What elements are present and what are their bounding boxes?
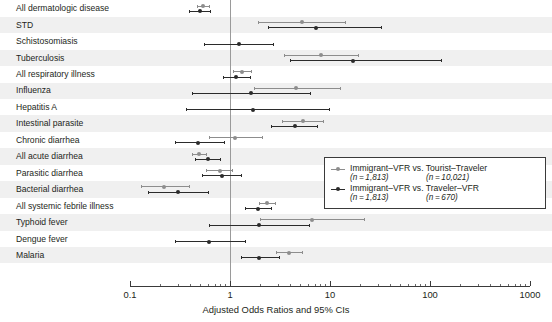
ci-cap [141,185,142,188]
row-label: Intestinal parasite [16,119,83,128]
axis-tick-minor [420,284,421,287]
row-label: All respiratory illness [16,70,95,79]
odds-ratio-marker [251,108,255,112]
axis-tick-minor [520,284,521,287]
confidence-interval [290,60,441,61]
ci-cap [251,70,252,73]
ci-cap [195,158,196,161]
axis-tick-minor [178,284,179,287]
ci-cap [441,59,442,62]
legend-n-series2: (n = 1,813) (n = 670) [350,193,389,202]
axis-tick-minor [278,284,279,287]
odds-ratio-marker [240,70,244,74]
ci-cap [241,174,242,177]
ci-cap [175,141,176,144]
axis-tick-minor [325,284,326,287]
row-label: STD [16,21,33,30]
ci-cap [224,141,225,144]
legend-label-series2: Immigrant–VFR vs. Traveler–VFR [350,183,479,193]
ci-cap [232,169,233,172]
axis-tick-major [330,281,331,286]
axis-tick-minor [390,284,391,287]
axis-tick-minor [508,284,509,287]
ci-cap [364,218,365,221]
ci-cap [302,251,303,254]
row-label: All systemic febrile illness [16,202,113,211]
row-label: Hepatitis A [16,103,57,112]
ci-cap [273,43,274,46]
axis-tick-minor [320,284,321,287]
odds-ratio-marker [287,251,291,255]
ci-cap [197,5,198,8]
axis-tick-minor [415,284,416,287]
odds-ratio-marker [207,240,211,244]
ci-cap [233,70,234,73]
axis-tick-minor [378,284,379,287]
ci-cap [259,202,260,205]
axis-tick-minor [315,284,316,287]
axis-tick-minor [490,284,491,287]
ci-cap [202,174,203,177]
confidence-interval [186,109,329,110]
ci-cap [329,108,330,111]
axis-tick-label: 0.1 [123,289,136,300]
ci-cap [245,207,246,210]
ci-cap [186,108,187,111]
ci-cap [210,10,211,13]
ci-cap [208,191,209,194]
axis-tick-minor [215,284,216,287]
row-label: Typhoid fever [16,218,68,227]
row-band [0,83,552,99]
odds-ratio-marker [265,201,269,205]
ci-cap [175,240,176,243]
ci-cap [241,256,242,259]
axis-tick-minor [308,284,309,287]
axis-tick-minor [300,284,301,287]
odds-ratio-marker [220,174,224,178]
legend-entry-1: Immigrant–VFR vs. Traveler–VFR (n = 1,81… [331,183,537,203]
axis-tick-minor [190,284,191,287]
ci-cap [271,125,272,128]
ci-cap [220,158,221,161]
row-band [0,214,552,230]
ci-cap [345,21,346,24]
row-label: Tuberculosis [16,54,64,63]
ci-cap [148,191,149,194]
ci-cap [381,26,382,29]
ci-cap [340,87,341,90]
ci-cap [192,153,193,156]
x-axis-title: Adjusted Odds Ratios and 95% CIs [0,304,552,315]
axis-tick-label: 1 [227,289,232,300]
axis-tick-minor [408,284,409,287]
axis-tick-label: 1000 [520,289,541,300]
odds-ratio-marker [237,42,241,46]
ci-cap [268,26,269,29]
axis-tick-minor [225,284,226,287]
ci-cap [258,21,259,24]
odds-ratio-marker [201,4,205,8]
axis-tick-major [430,281,431,286]
axis-tick-label: 100 [422,289,438,300]
ci-cap [223,76,224,79]
axis-tick-major [130,281,131,286]
axis-tick-label: 10 [325,289,335,300]
odds-ratio-marker [256,207,260,211]
ci-cap [271,207,272,210]
row-label: All acute diarrhea [16,152,83,161]
legend-n-series1: (n = 1,813) (n = 10,021) [350,173,389,182]
ci-cap [282,120,283,123]
odds-ratio-marker [257,256,261,260]
ci-cap [206,169,207,172]
row-band [0,247,552,263]
axis-tick-minor [400,284,401,287]
ci-cap [209,136,210,139]
legend-label-series1: Immigrant–VFR vs. Tourist–Traveler [350,163,487,173]
axis-tick-minor [460,284,461,287]
axis-tick-minor [260,284,261,287]
odds-ratio-marker [351,59,355,63]
row-label: Influenza [16,86,51,95]
ci-cap [189,10,190,13]
legend: Immigrant–VFR vs. Tourist–Traveler (n = … [324,157,546,209]
ci-cap [204,43,205,46]
row-label: All dermatologic disease [16,4,109,13]
